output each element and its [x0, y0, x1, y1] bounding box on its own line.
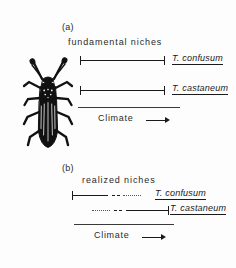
species-label-b-confusum: T. confusum	[155, 188, 206, 200]
range-segment-dashed	[112, 195, 120, 196]
arrow-shaft	[146, 120, 166, 121]
range-cap-right	[164, 56, 165, 65]
range-bar-a-confusum	[80, 56, 170, 65]
climate-axis-label-b: Climate	[94, 230, 129, 240]
range-segment-solid	[126, 210, 168, 211]
range-bar-a-castaneum	[80, 86, 170, 95]
species-label-a-castaneum: T. castaneum	[172, 83, 228, 95]
climate-axis-rule-b	[74, 224, 174, 225]
panel-b-label: (b)	[62, 163, 74, 173]
range-segment-solid	[80, 60, 164, 61]
climate-arrow-a	[146, 115, 174, 125]
species-label-a-confusum: T. confusum	[172, 53, 223, 65]
range-segment-solid	[72, 195, 108, 196]
range-segment-dotted	[92, 210, 110, 211]
range-segment-dotted	[123, 195, 141, 196]
range-cap-right	[168, 206, 169, 215]
niche-figure: (a) fundamental niches T. confusum T. ca…	[0, 0, 236, 268]
range-segment-dashed	[114, 210, 122, 211]
range-cap-right	[164, 86, 165, 95]
right-arrow-icon	[165, 117, 170, 123]
panel-b-title: realized niches	[82, 175, 156, 185]
panel-a-label: (a)	[62, 22, 74, 32]
panel-a-title: fundamental niches	[68, 37, 162, 47]
range-bar-b-castaneum	[92, 206, 172, 215]
climate-axis-label-a: Climate	[98, 113, 133, 123]
right-arrow-icon	[161, 234, 166, 240]
arrow-shaft	[142, 237, 162, 238]
climate-arrow-b	[142, 232, 170, 242]
beetle-drawing	[20, 55, 76, 159]
range-bar-b-confusum	[72, 191, 148, 200]
climate-axis-rule-a	[78, 107, 180, 108]
flour-beetle-illustration	[20, 55, 76, 159]
species-label-b-castaneum: T. castaneum	[170, 203, 226, 215]
range-segment-solid	[80, 90, 164, 91]
